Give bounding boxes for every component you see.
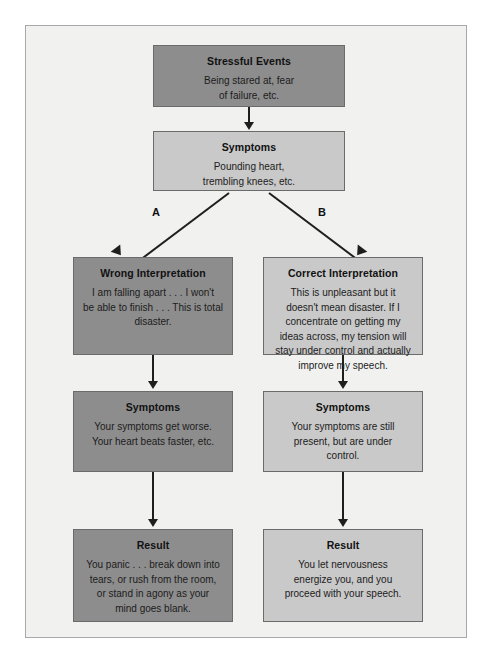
node-stressful-events-body: Being stared at, fearof failure, etc. [162, 74, 336, 103]
branch-label-a: A [152, 206, 160, 218]
branch-label-b: B [318, 206, 326, 218]
connector-line [342, 472, 344, 521]
node-symptoms-right: Symptoms Your symptoms are stillpresent,… [263, 391, 423, 472]
arrowhead-icon [148, 519, 158, 527]
node-result-right: Result You let nervousnessenergize you, … [263, 529, 423, 622]
node-correct-interpretation: Correct Interpretation This is unpleasan… [263, 257, 423, 355]
node-result-right-title: Result [272, 539, 414, 552]
node-symptoms-top-body: Pounding heart,trembling knees, etc. [162, 160, 336, 189]
node-wrong-interpretation-title: Wrong Interpretation [82, 267, 224, 280]
arrowhead-icon [148, 381, 158, 389]
node-symptoms-left-body: Your symptoms get worse.Your heart beats… [82, 420, 224, 449]
node-result-right-body: You let nervousnessenergize you, and you… [272, 558, 414, 602]
connector-line [152, 355, 154, 383]
connector-line [268, 192, 359, 262]
node-symptoms-top-title: Symptoms [162, 141, 336, 154]
node-symptoms-right-title: Symptoms [272, 401, 414, 414]
node-result-left: Result You panic . . . break down intote… [73, 529, 233, 622]
diagram-page: Stressful Events Being stared at, fearof… [0, 0, 493, 664]
arrowhead-icon [244, 122, 254, 130]
node-result-left-body: You panic . . . break down intotears, or… [82, 558, 224, 616]
node-symptoms-right-body: Your symptoms are stillpresent, but are … [272, 420, 414, 464]
connector-line [342, 355, 344, 383]
diagram-frame: Stressful Events Being stared at, fearof… [25, 25, 467, 638]
node-symptoms-top: Symptoms Pounding heart,trembling knees,… [153, 131, 345, 191]
node-wrong-interpretation: Wrong Interpretation I am falling apart … [73, 257, 233, 355]
arrowhead-icon [338, 381, 348, 389]
node-wrong-interpretation-body: I am falling apart . . . I won'tbe able … [82, 286, 224, 330]
node-symptoms-left: Symptoms Your symptoms get worse.Your he… [73, 391, 233, 472]
node-stressful-events: Stressful Events Being stared at, fearof… [153, 45, 345, 107]
connector-line [138, 192, 229, 262]
node-symptoms-left-title: Symptoms [82, 401, 224, 414]
arrowhead-icon [338, 519, 348, 527]
node-stressful-events-title: Stressful Events [162, 55, 336, 68]
node-correct-interpretation-title: Correct Interpretation [272, 267, 414, 280]
node-result-left-title: Result [82, 539, 224, 552]
connector-line [152, 472, 154, 521]
